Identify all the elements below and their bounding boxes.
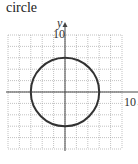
x-axis-label: x <box>137 94 138 108</box>
y-axis-label: y <box>56 16 63 30</box>
axes <box>6 22 138 151</box>
x-tick-label: 10 <box>124 95 136 109</box>
circle-graph: 10 10 y x <box>0 0 138 164</box>
